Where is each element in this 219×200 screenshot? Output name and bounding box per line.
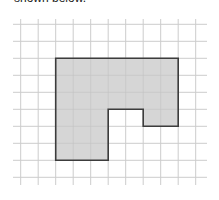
grid-figure (0, 0, 219, 200)
